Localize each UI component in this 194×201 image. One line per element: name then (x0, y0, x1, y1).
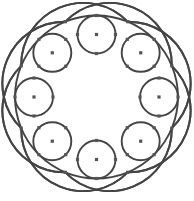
star-arc (65, 128, 171, 191)
circle-tangent-point (13, 95, 16, 98)
circle-center-point (157, 95, 160, 98)
circle-center-point (139, 140, 142, 143)
circle-tangent-point (32, 76, 35, 79)
outer-arc-point (126, 20, 129, 23)
circle-tangent-point (37, 153, 40, 156)
outer-arc-point (64, 171, 67, 174)
circle-tangent-point (95, 177, 98, 180)
circle-center-point (139, 51, 142, 54)
circle-tangent-point (138, 95, 141, 98)
circle-tangent-point (126, 38, 129, 41)
star-arc (21, 3, 127, 66)
star-arc (2, 22, 65, 128)
star-arc (128, 66, 191, 172)
star-arc (65, 128, 171, 191)
circle-tangent-point (153, 153, 156, 156)
outer-arc-point (20, 127, 23, 130)
circle-tangent-point (37, 38, 40, 41)
circle-center-point (32, 95, 35, 98)
circle-tangent-point (126, 153, 129, 156)
circle-tangent-point (157, 114, 160, 117)
circle-tangent-point (153, 38, 156, 41)
circle-tangent-point (51, 95, 54, 98)
circle-tangent-point (64, 153, 67, 156)
circle-tangent-point (76, 33, 79, 36)
circle-tangent-point (126, 65, 129, 68)
star-arc (65, 3, 171, 66)
star-arc (2, 66, 65, 172)
star-arc (21, 128, 127, 191)
circle-tangent-point (32, 114, 35, 117)
star-arc (2, 66, 65, 172)
outer-arc-point (170, 64, 173, 67)
construction-points-group (13, 14, 179, 180)
circle-tangent-point (76, 158, 79, 161)
circle-tangent-point (95, 139, 98, 142)
rosette-diagram (0, 0, 194, 201)
star-arcs-group (2, 3, 190, 191)
circle-tangent-point (153, 65, 156, 68)
circle-center-point (95, 158, 98, 161)
outer-arc-point (64, 20, 67, 23)
circle-tangent-point (64, 126, 67, 129)
circle-tangent-point (37, 65, 40, 68)
star-arc (128, 22, 191, 128)
circle-center-point (51, 51, 54, 54)
star-arc (128, 22, 191, 128)
outer-arc-point (170, 127, 173, 130)
circle-tangent-point (176, 95, 179, 98)
circle-tangent-point (157, 76, 160, 79)
star-arc (21, 128, 127, 191)
circle-tangent-point (153, 126, 156, 129)
star-arc (128, 66, 191, 172)
circle-center-point (51, 140, 54, 143)
circle-tangent-point (114, 33, 117, 36)
circle-tangent-point (114, 158, 117, 161)
outer-arc-point (126, 171, 129, 174)
star-arc (2, 22, 65, 128)
circle-tangent-point (37, 126, 40, 129)
circle-tangent-point (64, 65, 67, 68)
circle-tangent-point (95, 14, 98, 17)
star-arc (21, 3, 127, 66)
circle-tangent-point (126, 126, 129, 129)
circle-tangent-point (95, 52, 98, 55)
circle-tangent-point (64, 38, 67, 41)
circle-center-point (95, 33, 98, 36)
star-arc (65, 3, 171, 66)
outer-arc-point (20, 64, 23, 67)
